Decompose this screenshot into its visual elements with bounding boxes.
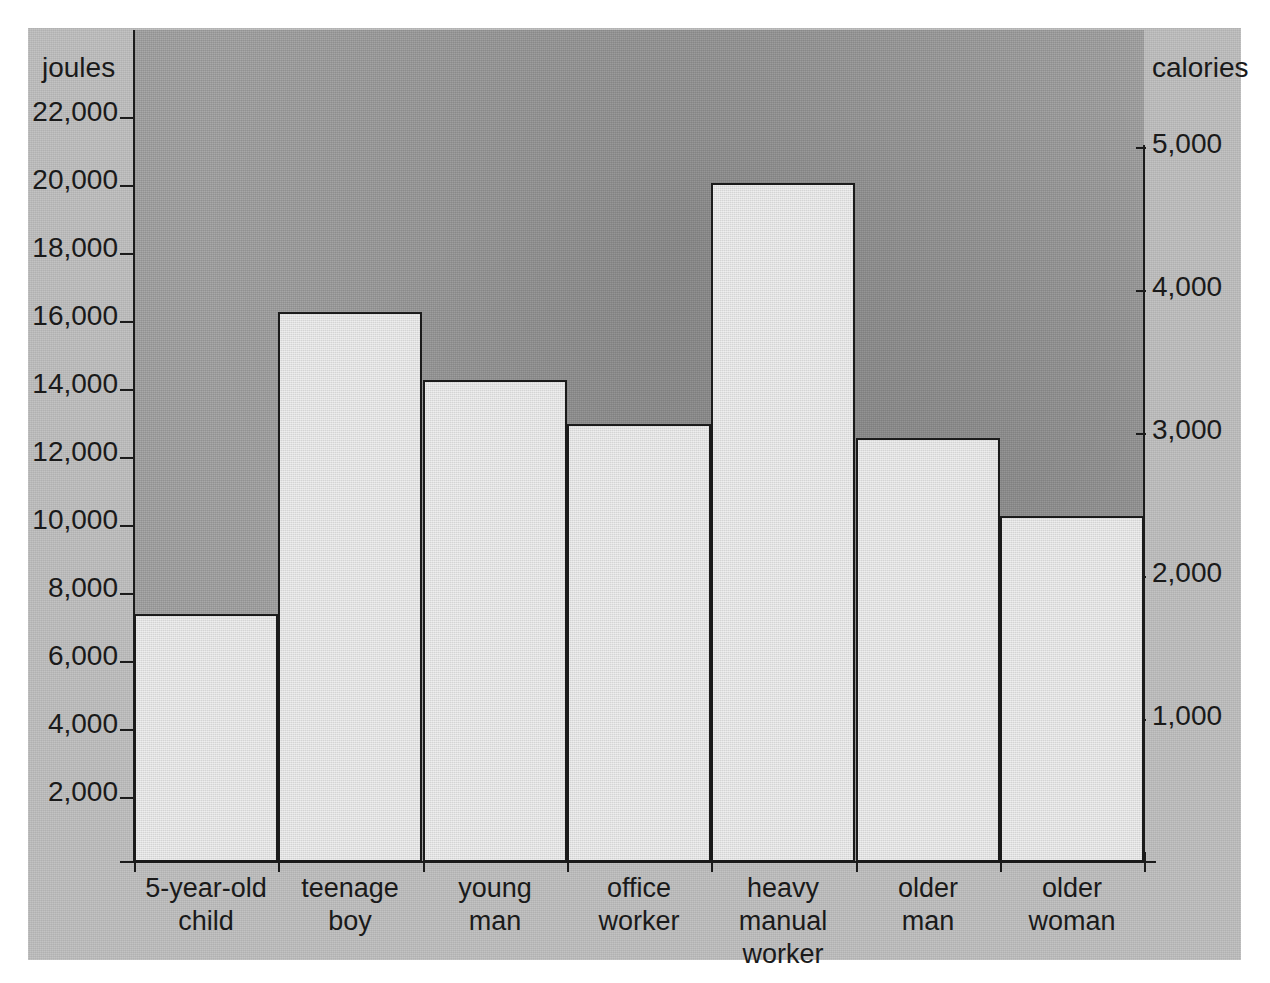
- left-axis-tick-label: 2,000: [0, 776, 118, 808]
- x-axis-label-line: boy: [278, 905, 422, 938]
- left-axis-tick-label: 10,000: [0, 504, 118, 536]
- x-axis-label-line: worker: [711, 938, 855, 971]
- x-axis-label-line: teenage: [278, 872, 422, 905]
- right-axis-tick: [1136, 147, 1146, 149]
- left-axis-tick-label: 6,000: [0, 640, 118, 672]
- x-axis-label-line: office: [567, 872, 711, 905]
- left-axis-tick: [120, 525, 134, 527]
- left-axis-tick-label: 4,000: [0, 708, 118, 740]
- x-axis-label: olderwoman: [1000, 872, 1144, 938]
- left-axis-tick: [120, 797, 134, 799]
- bar-teenage-boy: [278, 312, 422, 862]
- right-axis-tick-label: 3,000: [1152, 414, 1222, 446]
- left-axis-tick: [120, 389, 134, 391]
- bar-heavy-manual-worker: [711, 183, 855, 862]
- x-axis-label-line: heavy: [711, 872, 855, 905]
- right-axis-tick-label: 2,000: [1152, 557, 1222, 589]
- bar-young-man: [423, 380, 567, 862]
- x-axis-label: heavymanualworker: [711, 872, 855, 971]
- left-axis-tick: [120, 729, 134, 731]
- chart-page: joules calories 2,0004,0006,0008,00010,0…: [0, 0, 1270, 983]
- x-axis-label-line: man: [423, 905, 567, 938]
- x-axis-label: olderman: [856, 872, 1000, 938]
- bar-older-man: [856, 438, 1000, 862]
- x-axis-label-line: older: [856, 872, 1000, 905]
- left-axis-title: joules: [42, 52, 115, 84]
- x-axis-label-line: woman: [1000, 905, 1144, 938]
- right-axis-tick: [1136, 290, 1146, 292]
- x-axis-label-line: manual: [711, 905, 855, 938]
- x-axis-label-line: 5-year-old: [134, 872, 278, 905]
- right-axis-tick-label: 4,000: [1152, 271, 1222, 303]
- left-axis-tick-label: 8,000: [0, 572, 118, 604]
- left-axis-tick-label: 22,000: [0, 96, 118, 128]
- x-axis-label-line: man: [856, 905, 1000, 938]
- right-axis-tick: [1136, 433, 1146, 435]
- left-axis-tick-label: 16,000: [0, 300, 118, 332]
- left-axis-tick: [120, 185, 134, 187]
- x-axis-label: youngman: [423, 872, 567, 938]
- left-axis-tick: [120, 661, 134, 663]
- left-axis-tick: [120, 117, 134, 119]
- bar-5-year-old-child: [134, 614, 278, 862]
- left-axis-tick: [120, 253, 134, 255]
- x-axis-label-line: young: [423, 872, 567, 905]
- left-axis-tick: [120, 457, 134, 459]
- left-axis-tick: [120, 593, 134, 595]
- x-axis-label-line: child: [134, 905, 278, 938]
- x-axis-label: officeworker: [567, 872, 711, 938]
- right-axis-tick-label: 1,000: [1152, 700, 1222, 732]
- x-axis-label: teenageboy: [278, 872, 422, 938]
- x-axis-tick: [1144, 852, 1146, 872]
- left-axis-tick-label: 20,000: [0, 164, 118, 196]
- left-axis-tick-label: 18,000: [0, 232, 118, 264]
- left-axis-tick: [120, 321, 134, 323]
- x-axis-label: 5-year-oldchild: [134, 872, 278, 938]
- bar-older-woman: [1000, 516, 1144, 862]
- left-axis-tick-label: 14,000: [0, 368, 118, 400]
- left-axis-tick-label: 12,000: [0, 436, 118, 468]
- right-axis-title: calories: [1152, 52, 1248, 84]
- x-axis-label-line: older: [1000, 872, 1144, 905]
- x-axis-label-line: worker: [567, 905, 711, 938]
- right-axis-tick-label: 5,000: [1152, 128, 1222, 160]
- bar-office-worker: [567, 424, 711, 862]
